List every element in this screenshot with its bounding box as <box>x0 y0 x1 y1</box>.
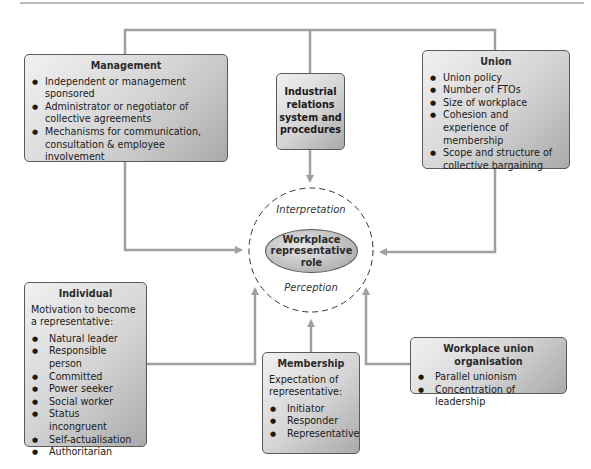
list-item: Committed <box>31 371 140 384</box>
union-box: Union Union policy Number of FTOs Size o… <box>422 50 570 169</box>
union-title: Union <box>429 56 563 69</box>
list-item: Number of FTOs <box>429 84 563 97</box>
list-item: Cohesion and experience of membership <box>429 109 563 147</box>
individual-title: Individual <box>31 288 140 301</box>
industrial-relations-title: Industrial relations system and procedur… <box>279 86 342 136</box>
membership-box: Membership Expectation of representative… <box>262 352 360 454</box>
list-item: Scope and structure of collective bargai… <box>429 147 563 172</box>
list-item: Responsible person <box>31 345 140 370</box>
list-item: Representative <box>269 428 353 441</box>
management-title: Management <box>31 60 221 73</box>
list-item: Initiator <box>269 403 353 416</box>
workplace-union-organisation-title: Workplace union organisation <box>417 343 560 368</box>
membership-title: Membership <box>269 358 353 371</box>
list-item: Parallel unionism <box>417 371 560 384</box>
workplace-union-organisation-box: Workplace union organisation Parallel un… <box>410 337 567 394</box>
list-item: Social worker <box>31 396 140 409</box>
management-box: Management Independent or management spo… <box>24 54 228 162</box>
list-item: Administrator or negotiator of collectiv… <box>31 101 221 126</box>
industrial-relations-box: Industrial relations system and procedur… <box>276 73 345 150</box>
list-item: Status incongruent <box>31 408 140 433</box>
individual-intro: Motivation to become a representative: <box>31 304 140 329</box>
core-line: representative <box>271 245 353 257</box>
membership-intro: Expectation of representative: <box>269 374 353 399</box>
list-item: Size of workplace <box>429 97 563 110</box>
list-item: Self-actualisation <box>31 434 140 447</box>
list-item: Authoritarian <box>31 446 140 459</box>
core-line: role <box>271 257 353 269</box>
list-item: Independent or management sponsored <box>31 76 221 101</box>
list-item: Mechanisms for communication, consultati… <box>31 126 221 164</box>
list-item: Union policy <box>429 72 563 85</box>
list-item: Responder <box>269 415 353 428</box>
list-item: Natural leader <box>31 333 140 346</box>
perception-label: Perception <box>261 282 361 293</box>
individual-box: Individual Motivation to become a repres… <box>24 282 147 447</box>
list-item: Concentration of leadership <box>417 384 560 409</box>
interpretation-label: Interpretation <box>261 204 361 215</box>
workplace-representative-role: Workplace representative role <box>265 229 358 273</box>
list-item: Power seeker <box>31 383 140 396</box>
core-line: Workplace <box>271 234 353 246</box>
